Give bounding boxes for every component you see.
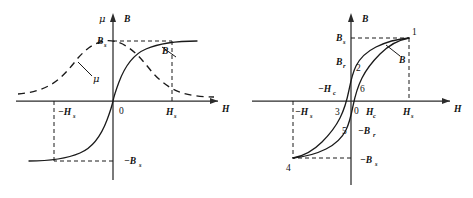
left-origin-label: 0 xyxy=(119,106,124,116)
right-origin-label: 0 xyxy=(354,106,359,116)
right-bs-neg-label: −B s xyxy=(360,155,378,167)
right-b-axis-label: B xyxy=(361,14,368,24)
right-hs-neg-label: −H s xyxy=(295,107,313,119)
svg-text:−B: −B xyxy=(358,126,370,136)
right-point-4-label: 4 xyxy=(286,163,291,173)
left-h-axis-label: H xyxy=(221,104,230,114)
left-hs-pos-label: H s xyxy=(165,107,177,119)
left-mu-callout-leader xyxy=(78,62,92,76)
left-bs-pos-label: B s xyxy=(96,36,107,48)
svg-text:s: s xyxy=(173,112,177,119)
svg-text:s: s xyxy=(410,112,414,119)
left-y-axis-arrow xyxy=(110,13,116,22)
right-chart-svg: B H 0 B s B r −B r −B s xyxy=(238,0,473,198)
right-point-3-label: 3 xyxy=(335,107,340,117)
svg-text:s: s xyxy=(309,112,313,119)
left-chart-panel: μ B H 0 B s −B s −H s H s xyxy=(0,0,240,198)
svg-text:s: s xyxy=(342,38,346,45)
left-curve-mu-callout: μ xyxy=(93,73,100,84)
right-point-2-label: 2 xyxy=(356,63,361,73)
right-bs-pos-label: B s xyxy=(335,33,346,45)
right-b-callout-leader xyxy=(386,45,400,56)
left-hs-neg-label: −H s xyxy=(58,107,76,119)
svg-text:B: B xyxy=(335,33,342,43)
right-h-axis-label: H xyxy=(453,104,462,114)
left-b-axis-label: B xyxy=(123,14,130,24)
svg-text:−B: −B xyxy=(124,156,136,166)
right-hs-pos-label: H s xyxy=(402,107,414,119)
right-br-neg-label: −B r xyxy=(358,126,376,138)
right-point-1-label: 1 xyxy=(412,27,417,37)
right-chart-panel: B H 0 B s B r −B r −B s xyxy=(238,0,473,198)
svg-text:r: r xyxy=(373,131,376,138)
right-y-axis xyxy=(348,13,354,185)
right-hc-neg-label: −H c xyxy=(318,84,336,96)
right-point-5-label: 5 xyxy=(342,126,347,136)
left-y-axis xyxy=(110,13,116,180)
left-x-axis-arrow xyxy=(210,98,218,104)
svg-text:B: B xyxy=(335,57,342,67)
left-chart-svg: μ B H 0 B s −B s −H s H s xyxy=(0,0,240,198)
svg-text:H: H xyxy=(402,107,411,117)
svg-text:c: c xyxy=(333,89,336,96)
right-x-axis-arrow xyxy=(442,98,450,104)
svg-text:s: s xyxy=(138,161,142,168)
left-curve-b-callout: B xyxy=(161,46,168,56)
left-mu-axis-label: μ xyxy=(99,13,106,24)
svg-text:s: s xyxy=(374,160,378,167)
svg-text:−H: −H xyxy=(295,107,309,117)
svg-text:s: s xyxy=(103,41,107,48)
svg-text:−H: −H xyxy=(58,107,72,117)
svg-text:c: c xyxy=(373,112,376,119)
left-bs-neg-label: −B s xyxy=(124,156,142,168)
figure-root: μ B H 0 B s −B s −H s H s xyxy=(0,0,473,198)
right-hc-pos-label: H c xyxy=(365,107,376,119)
svg-text:H: H xyxy=(165,107,174,117)
right-y-axis-arrow xyxy=(348,13,354,22)
svg-text:s: s xyxy=(72,112,76,119)
svg-text:−B: −B xyxy=(360,155,372,165)
svg-text:r: r xyxy=(343,62,346,69)
svg-text:B: B xyxy=(96,36,103,46)
right-point-6-label: 6 xyxy=(360,84,365,94)
left-x-axis xyxy=(16,98,218,104)
right-br-pos-label: B r xyxy=(335,57,346,69)
right-curve-b-callout: B xyxy=(398,55,405,65)
svg-text:−H: −H xyxy=(318,84,332,94)
